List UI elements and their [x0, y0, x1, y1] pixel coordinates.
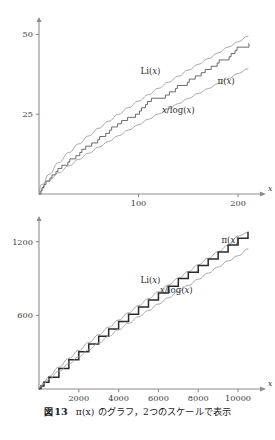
figure-container: 1002002550xLi(x)π(x)x/log(x) 20004000600…	[0, 0, 275, 440]
curve-Lix	[39, 36, 248, 194]
curve-Lix	[39, 232, 248, 389]
curve-annotation: π(x)	[221, 235, 238, 245]
x-tick-label: 6000	[148, 393, 169, 403]
figure-caption: 図13π(x) のグラフ，2つのスケールで表示	[0, 404, 275, 418]
x-tick-label: 2000	[68, 393, 89, 403]
x-axis-arrow	[260, 386, 266, 391]
chart-svg-bottom: 2000400060008000100006001200xLi(x)π(x)x/…	[0, 207, 275, 404]
curve-annotation: x/log(x)	[160, 285, 193, 295]
curve-xlogx	[39, 69, 248, 194]
chart-svg-top: 1002002550xLi(x)π(x)x/log(x)	[0, 6, 275, 206]
caption-number: 13	[53, 406, 68, 417]
x-tick-label: 100	[131, 198, 147, 206]
x-axis-name: x	[268, 379, 273, 388]
chart-top-linear-scale: 1002002550xLi(x)π(x)x/log(x)	[0, 6, 275, 206]
y-tick-label: 1200	[12, 237, 33, 247]
x-tick-label: 200	[230, 198, 246, 206]
y-axis-arrow	[36, 216, 41, 221]
curve-annotation: π(x)	[217, 76, 234, 86]
x-tick-label: 8000	[188, 393, 209, 403]
curve-πx	[39, 232, 248, 389]
x-axis-name: x	[268, 184, 273, 193]
caption-label: 図	[44, 407, 53, 417]
curve-xlogx	[39, 249, 248, 389]
y-tick-label: 25	[23, 109, 33, 119]
x-tick-label: 10000	[225, 393, 251, 403]
x-tick-label: 4000	[108, 393, 129, 403]
y-tick-label: 600	[17, 310, 33, 320]
curve-annotation: Li(x)	[140, 66, 160, 76]
y-axis-arrow	[36, 17, 41, 22]
curve-annotation: Li(x)	[140, 275, 160, 285]
chart-bottom-large-scale: 2000400060008000100006001200xLi(x)π(x)x/…	[0, 207, 275, 404]
y-tick-label: 50	[23, 29, 33, 39]
axes-top	[36, 17, 266, 197]
curve-annotation: x/log(x)	[162, 105, 195, 115]
caption-text: π(x) のグラフ，2つのスケールで表示	[68, 406, 231, 417]
x-axis-arrow	[260, 191, 266, 196]
